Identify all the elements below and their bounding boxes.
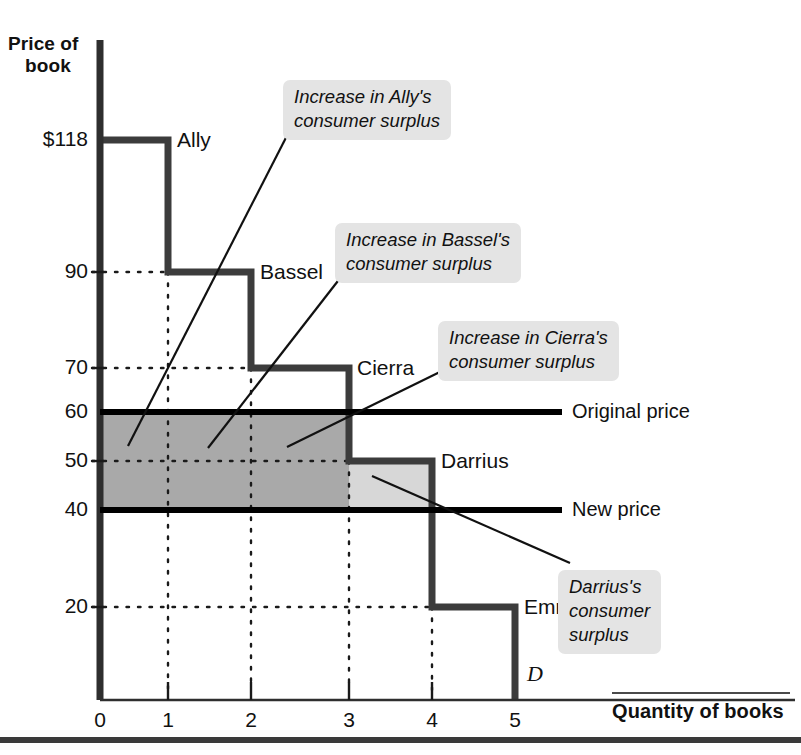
y-tick-label-118: $118 <box>12 127 88 151</box>
y-tick-label-90: 90 <box>12 259 88 283</box>
step-label-ally: Ally <box>177 128 211 152</box>
x-tick-label-1: 1 <box>153 708 183 732</box>
y-tick-label-70: 70 <box>12 355 88 379</box>
x-tick-label-2: 2 <box>236 708 266 732</box>
y-axis-title-line2: book <box>8 55 88 77</box>
y-axis-title: Price of book <box>8 33 88 77</box>
leader-line-ally <box>128 122 294 446</box>
leader-line-darrius <box>372 476 570 563</box>
y-axis-title-line1: Price of <box>8 33 88 55</box>
shaded-region-darrius-surplus <box>349 461 432 510</box>
y-tick-label-50: 50 <box>12 448 88 472</box>
callout-ally-line1: Increase in Ally's <box>294 85 440 109</box>
y-tick-label-20: 20 <box>12 594 88 618</box>
x-axis-title: Quantity of books <box>612 700 784 722</box>
y-tick-label-60: 60 <box>12 399 88 423</box>
step-label-bassel: Bassel <box>260 260 323 284</box>
x-tick-label-5: 5 <box>500 708 530 732</box>
consumer-surplus-figure: Price of book $118 90 70 60 50 40 20 0 1… <box>0 0 801 755</box>
callout-bassel-line1: Increase in Bassel's <box>346 228 510 252</box>
callout-cierra-surplus: Increase in Cierra's consumer surplus <box>438 321 619 381</box>
x-tick-label-4: 4 <box>417 708 447 732</box>
step-label-cierra: Cierra <box>357 356 414 380</box>
callout-bassel-line2: consumer surplus <box>346 252 510 276</box>
callout-darrius-line1: Darrius's <box>569 575 650 599</box>
x-axis-title-rule <box>612 692 790 694</box>
callout-cierra-line2: consumer surplus <box>449 350 608 374</box>
new-price-label: New price <box>572 498 661 521</box>
demand-curve-label: D <box>527 661 543 687</box>
y-tick-label-40: 40 <box>12 497 88 521</box>
callout-bassel-surplus: Increase in Bassel's consumer surplus <box>335 223 521 283</box>
callout-darrius-line2: consumer <box>569 599 650 623</box>
original-price-label: Original price <box>572 400 690 423</box>
callout-ally-line2: consumer surplus <box>294 109 440 133</box>
x-tick-label-0: 0 <box>85 708 115 732</box>
callout-ally-surplus: Increase in Ally's consumer surplus <box>283 80 451 140</box>
callout-cierra-line1: Increase in Cierra's <box>449 326 608 350</box>
x-tick-marks <box>168 682 432 700</box>
step-label-darrius: Darrius <box>441 449 509 473</box>
bottom-page-rule <box>0 737 801 743</box>
callout-darrius-surplus: Darrius's consumer surplus <box>558 570 661 654</box>
x-tick-label-3: 3 <box>334 708 364 732</box>
callout-darrius-line3: surplus <box>569 623 650 647</box>
